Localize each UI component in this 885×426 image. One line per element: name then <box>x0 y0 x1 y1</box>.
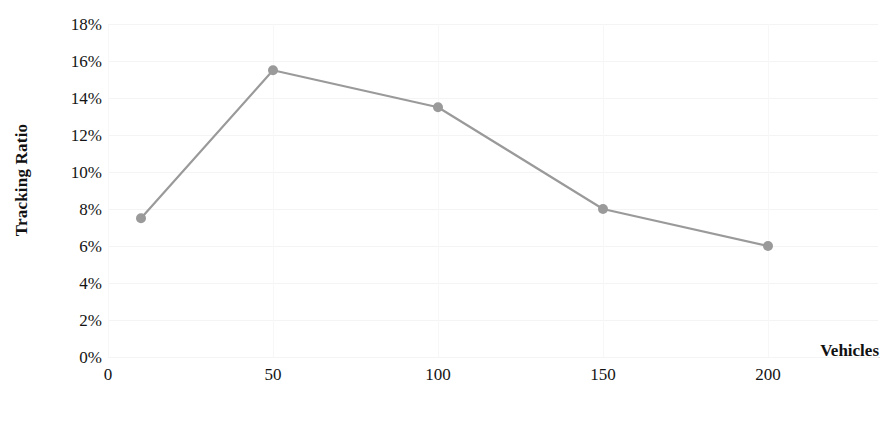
y-axis-title-label: Tracking Ratio <box>12 124 32 237</box>
data-series <box>108 24 878 357</box>
y-axis-tick-label: 10% <box>54 164 102 181</box>
data-point-marker <box>598 204 608 214</box>
y-axis-tick-label: 8% <box>54 201 102 218</box>
y-axis-tick-label: 2% <box>54 312 102 329</box>
x-axis-title: Vehicles <box>820 341 879 361</box>
gridline-horizontal <box>108 357 878 358</box>
y-axis-tick-label: 14% <box>54 90 102 107</box>
data-point-marker <box>268 65 278 75</box>
y-axis-tick-label: 18% <box>54 16 102 33</box>
data-point-marker <box>433 102 443 112</box>
x-axis-tick-label: 200 <box>755 366 781 383</box>
series-line <box>141 70 768 246</box>
x-axis-tick-label: 0 <box>104 366 113 383</box>
x-axis-tick-label: 50 <box>265 366 282 383</box>
y-axis-tick-label: 0% <box>54 349 102 366</box>
x-axis-tick-labels: 050100150200 <box>0 366 885 394</box>
x-axis-tick-label: 150 <box>590 366 616 383</box>
data-point-marker <box>763 241 773 251</box>
data-point-marker <box>136 213 146 223</box>
x-axis-tick-label: 100 <box>425 366 451 383</box>
y-axis-title: Tracking Ratio <box>0 0 44 360</box>
y-axis-tick-label: 4% <box>54 275 102 292</box>
y-axis-tick-labels: 0%2%4%6%8%10%12%14%16%18% <box>50 0 102 426</box>
line-chart: Tracking Ratio 0%2%4%6%8%10%12%14%16%18%… <box>0 0 885 426</box>
plot-area <box>108 24 878 357</box>
y-axis-tick-label: 12% <box>54 127 102 144</box>
y-axis-tick-label: 6% <box>54 238 102 255</box>
y-axis-tick-label: 16% <box>54 53 102 70</box>
